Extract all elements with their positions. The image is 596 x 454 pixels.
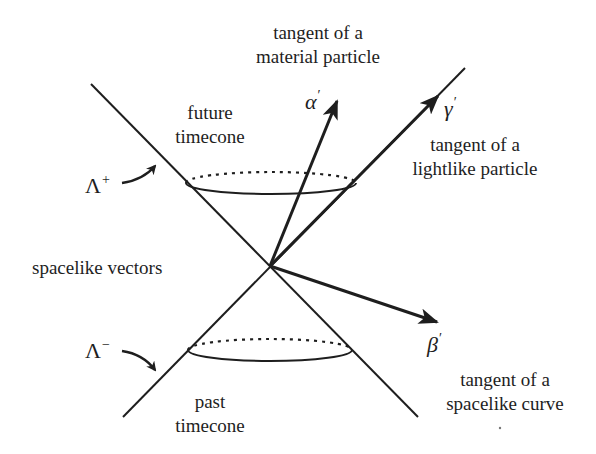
stray-dot bbox=[499, 427, 501, 429]
lambda-plus-sup: + bbox=[102, 172, 110, 187]
lambda-minus-symbol: Λ− bbox=[85, 337, 110, 364]
past-timecone-line-1: past bbox=[160, 390, 260, 414]
alpha-prime-symbol: α′ bbox=[305, 88, 321, 115]
gamma-prime-mark: ′ bbox=[454, 95, 457, 110]
lambda-plus-base: Λ bbox=[85, 173, 101, 198]
future-timecone-label: future timecone bbox=[160, 101, 260, 149]
lambda-plus-symbol: Λ+ bbox=[85, 172, 110, 199]
alpha-prime-mark: ′ bbox=[318, 88, 321, 103]
gamma-prime-symbol: γ′ bbox=[444, 95, 457, 122]
lambda-minus-sup: − bbox=[102, 337, 110, 352]
lightlike-tangent-label: tangent of a lightlike particle bbox=[395, 133, 555, 181]
past-timecone-label: past timecone bbox=[160, 390, 260, 438]
future-timecone-line-2: timecone bbox=[160, 125, 260, 149]
future-ellipse-front bbox=[186, 183, 356, 194]
material-tangent-label: tangent of a material particle bbox=[228, 21, 408, 69]
beta-prime-vector bbox=[270, 266, 437, 322]
past-ellipse-front bbox=[188, 350, 352, 361]
alpha-base: α bbox=[305, 89, 317, 114]
spacelike-tangent-label: tangent of a spacelike curve bbox=[425, 368, 585, 416]
lightlike-tangent-line-2: lightlike particle bbox=[395, 157, 555, 181]
past-timecone-line-2: timecone bbox=[160, 414, 260, 438]
spacelike-tangent-line-2: spacelike curve bbox=[425, 392, 585, 416]
light-cone-diagram: tangent of a material particle future ti… bbox=[0, 0, 596, 454]
alpha-prime-vector bbox=[270, 101, 337, 266]
future-timecone-line-1: future bbox=[160, 101, 260, 125]
beta-prime-symbol: β′ bbox=[427, 331, 442, 358]
beta-base: β bbox=[427, 332, 438, 357]
material-tangent-line-2: material particle bbox=[228, 45, 408, 69]
gamma-base: γ bbox=[444, 96, 453, 121]
past-ellipse-back bbox=[188, 339, 352, 350]
lambda-minus-base: Λ bbox=[85, 338, 101, 363]
lightlike-tangent-line-1: tangent of a bbox=[395, 133, 555, 157]
lambda-plus-pointer-arrow bbox=[122, 166, 155, 183]
future-ellipse-back bbox=[186, 172, 356, 183]
spacelike-vectors-label: spacelike vectors bbox=[32, 256, 194, 280]
lambda-minus-pointer-arrow bbox=[122, 351, 155, 370]
material-tangent-line-1: tangent of a bbox=[228, 21, 408, 45]
spacelike-tangent-line-1: tangent of a bbox=[425, 368, 585, 392]
beta-prime-mark: ′ bbox=[439, 331, 442, 346]
gamma-prime-vector bbox=[270, 96, 438, 266]
